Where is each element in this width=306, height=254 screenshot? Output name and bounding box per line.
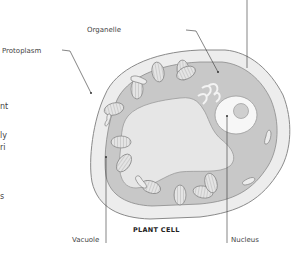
diagram-title: PLANT CELL (133, 226, 180, 234)
label-vacuole: Vacuole (72, 236, 99, 244)
plant-cell-diagram: Organelle Protoplasm Vacuole Nucleus PLA… (0, 0, 306, 254)
label-nucleus: Nucleus (231, 236, 259, 244)
side-text-fragment: nt (0, 102, 8, 111)
plant-cell-illustration (0, 0, 306, 254)
side-text-fragment: ly (0, 131, 7, 140)
label-organelle: Organelle (87, 26, 121, 34)
nucleolus (234, 104, 249, 119)
side-text-fragment: s (0, 192, 4, 201)
label-protoplasm: Protoplasm (2, 47, 41, 55)
side-text-fragment: ri (0, 143, 6, 152)
